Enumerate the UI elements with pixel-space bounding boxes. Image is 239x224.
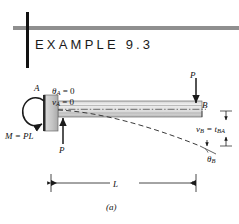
- label-force-left: P: [59, 146, 65, 155]
- label-point-b: B: [202, 101, 208, 110]
- page-title: EXAMPLE 9.3: [35, 37, 153, 52]
- label-force-top: P: [190, 71, 196, 80]
- beam-diagram-svg: [0, 70, 239, 224]
- label-point-a: A: [34, 84, 40, 93]
- label-v-a: vA = 0: [52, 98, 74, 108]
- moment-arrow: [23, 98, 44, 126]
- label-theta-b: θB: [207, 155, 215, 165]
- label-theta-a: θA = 0: [52, 87, 74, 97]
- header-rule-vertical: [26, 12, 29, 68]
- beam-diagram: A θA = 0 vA = 0 M = PL P P B vB = tBA θB…: [0, 70, 239, 224]
- header-rule-horizontal: [13, 26, 239, 30]
- label-v-b: vB = tBA: [196, 125, 225, 135]
- label-moment: M = PL: [5, 132, 34, 141]
- figure-caption: (a): [106, 203, 117, 212]
- figure-page: EXAMPLE 9.3: [0, 0, 239, 224]
- tangent-line-b: [200, 146, 216, 154]
- label-length: L: [113, 180, 118, 189]
- length-dimension: [51, 174, 196, 192]
